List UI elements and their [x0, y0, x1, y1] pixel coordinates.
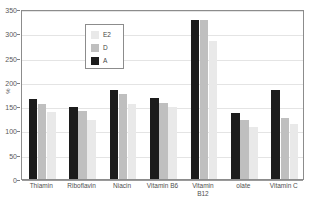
legend-swatch-d — [91, 44, 99, 52]
y-axis-tick-labels: 050100150200250300350 — [0, 10, 19, 180]
y-tick-label: 150 — [5, 104, 17, 111]
y-tick-mark — [17, 83, 20, 84]
bar-d — [281, 118, 290, 179]
y-tick-mark — [17, 180, 20, 181]
bar-chart: % 050100150200250300350 E2DA ThiaminRibo… — [0, 0, 309, 205]
y-tick-mark — [17, 10, 20, 11]
x-axis-tick-labels: ThiaminRiboflavinNiacinVitamin B6Vitamin… — [21, 182, 304, 205]
y-tick-mark — [17, 131, 20, 132]
chart-legend: E2DA — [85, 24, 124, 69]
legend-label: D — [103, 45, 108, 52]
y-tick-mark — [17, 156, 20, 157]
x-tick-label: Thiamin — [21, 182, 61, 190]
legend-swatch-a — [91, 57, 99, 65]
y-tick-label: 200 — [5, 79, 17, 86]
x-tick-label: Vitamin C — [264, 182, 304, 190]
legend-label: E2 — [103, 32, 111, 39]
x-tick-label: Vitamin B6 — [142, 182, 182, 190]
y-tick-label: 350 — [5, 7, 17, 14]
y-tick-label: 100 — [5, 128, 17, 135]
bars-layer — [22, 11, 303, 179]
gridline — [22, 180, 303, 181]
y-tick-mark — [17, 34, 20, 35]
y-tick-mark — [17, 107, 20, 108]
x-tick-label: Niacin — [102, 182, 142, 190]
x-tick-label: olate — [223, 182, 263, 190]
x-tick-label: Vitamin B12 — [183, 182, 223, 198]
legend-item: E2 — [91, 29, 123, 41]
legend-item: A — [91, 55, 123, 67]
y-tick-label: 250 — [5, 55, 17, 62]
legend-label: A — [103, 58, 107, 65]
y-tick-mark — [17, 59, 20, 60]
bar-group — [22, 11, 305, 179]
bar-a — [271, 90, 280, 179]
y-tick-label: 50 — [9, 152, 17, 159]
legend-item: D — [91, 42, 123, 54]
plot-area: E2DA — [21, 10, 304, 180]
legend-swatch-e2 — [91, 31, 99, 39]
x-tick-label: Riboflavin — [61, 182, 101, 190]
y-tick-label: 300 — [5, 31, 17, 38]
bar-e2 — [290, 124, 299, 179]
